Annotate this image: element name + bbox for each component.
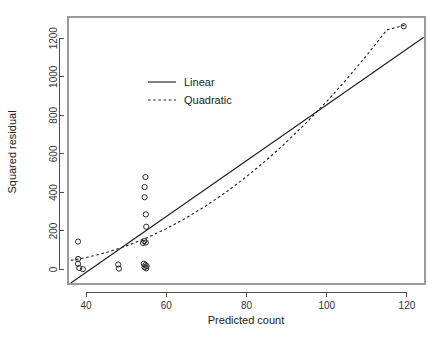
plot-canvas: 406080100120 020040060080010001200 Linea…: [0, 0, 437, 338]
y-tick-label: 800: [49, 107, 60, 124]
x-tick-label: 100: [318, 300, 335, 311]
y-tick-label: 400: [49, 184, 60, 201]
scatter-plot-figure: 406080100120 020040060080010001200 Linea…: [0, 0, 437, 338]
x-tick-label: 40: [80, 300, 92, 311]
y-tick-label: 0: [49, 266, 60, 272]
y-tick-label: 200: [49, 222, 60, 239]
x-tick-label: 60: [161, 300, 173, 311]
figure-background: [0, 0, 437, 338]
x-axis-title: Predicted count: [208, 314, 284, 326]
y-tick-label: 1000: [49, 65, 60, 88]
x-tick-label: 120: [399, 300, 416, 311]
y-axis-title: Squared residual: [6, 110, 18, 193]
y-tick-label: 1200: [49, 27, 60, 50]
legend-label-linear: Linear: [184, 76, 215, 88]
y-tick-label: 600: [49, 145, 60, 162]
legend-label-quadratic: Quadratic: [184, 94, 232, 106]
x-tick-label: 80: [241, 300, 253, 311]
